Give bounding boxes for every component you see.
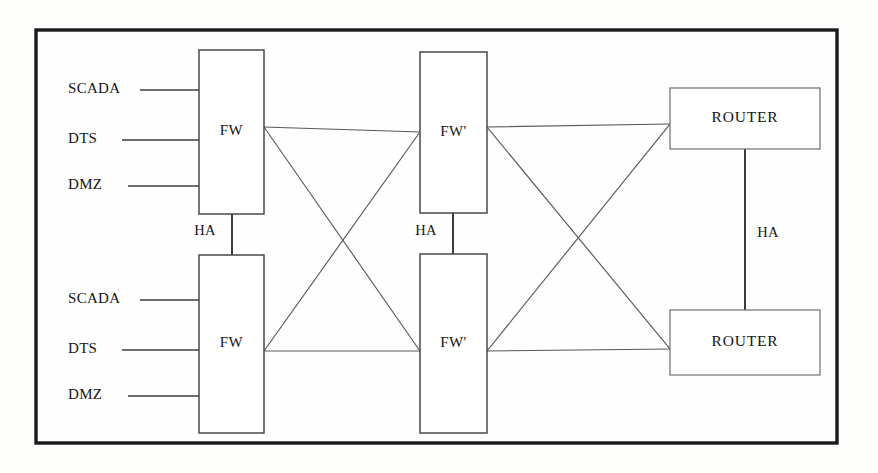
node-label-fwp-top: FW' — [440, 123, 466, 139]
ha-fw-label: HA — [194, 222, 216, 238]
feed-label-dts-bottom: DTS — [68, 340, 97, 356]
diagram-canvas: FWFWFW'FW'ROUTERROUTERSCADADTSDMZSCADADT… — [0, 0, 878, 473]
ha-fwp-label: HA — [415, 222, 437, 238]
node-label-router-top: ROUTER — [712, 108, 779, 125]
ha-router-label: HA — [757, 224, 779, 240]
feed-label-scada-bottom: SCADA — [68, 290, 120, 306]
node-label-fw-top: FW — [220, 122, 244, 138]
feed-label-scada-top: SCADA — [68, 80, 120, 96]
feed-label-dmz-bottom: DMZ — [68, 386, 102, 402]
node-label-router-bottom: ROUTER — [712, 332, 779, 349]
node-label-fw-bottom: FW — [220, 334, 244, 350]
network-diagram: FWFWFW'FW'ROUTERROUTERSCADADTSDMZSCADADT… — [0, 0, 878, 473]
feed-label-dts-top: DTS — [68, 130, 97, 146]
node-label-fwp-bottom: FW' — [440, 334, 466, 350]
feed-label-dmz-top: DMZ — [68, 176, 102, 192]
